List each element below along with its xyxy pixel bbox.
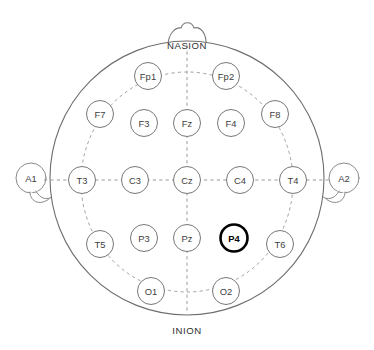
electrode-f8[interactable]: F8 bbox=[262, 101, 289, 128]
electrode-label-c4: C4 bbox=[234, 175, 246, 186]
electrode-pz[interactable]: Pz bbox=[174, 225, 201, 252]
electrode-t5[interactable]: T5 bbox=[87, 231, 114, 258]
electrode-label-f3: F3 bbox=[138, 118, 149, 129]
electrode-label-cz: Cz bbox=[181, 175, 193, 186]
landmark-inion-label: INION bbox=[172, 325, 201, 336]
electrode-o1[interactable]: O1 bbox=[138, 278, 165, 305]
eeg-diagram-canvas: Fp1Fp2F7F3FzF4F8T3C3CzC4T4T5P3PzP4T6O1O2… bbox=[0, 0, 374, 350]
electrode-label-t4: T4 bbox=[287, 175, 298, 186]
electrode-label-fp1: Fp1 bbox=[140, 71, 156, 82]
electrode-f4[interactable]: F4 bbox=[218, 110, 245, 137]
electrode-label-f7: F7 bbox=[94, 109, 105, 120]
electrode-label-o1: O1 bbox=[145, 286, 158, 297]
electrode-t3[interactable]: T3 bbox=[69, 167, 96, 194]
electrode-c4[interactable]: C4 bbox=[227, 167, 254, 194]
electrode-c3[interactable]: C3 bbox=[122, 167, 149, 194]
electrode-label-f8: F8 bbox=[269, 109, 280, 120]
electrode-label-p4: P4 bbox=[228, 233, 240, 244]
electrode-p4[interactable]: P4 bbox=[221, 225, 248, 252]
electrode-f3[interactable]: F3 bbox=[131, 110, 158, 137]
electrode-label-fp2: Fp2 bbox=[218, 71, 234, 82]
electrode-cz[interactable]: Cz bbox=[174, 167, 201, 194]
electrode-f7[interactable]: F7 bbox=[87, 101, 114, 128]
electrode-fz[interactable]: Fz bbox=[174, 110, 201, 137]
ear-label-a2: A2 bbox=[338, 173, 349, 184]
electrode-o2[interactable]: O2 bbox=[213, 278, 240, 305]
electrode-label-fz: Fz bbox=[182, 118, 193, 129]
electrode-fp1[interactable]: Fp1 bbox=[135, 63, 162, 90]
electrode-label-t5: T5 bbox=[94, 239, 105, 250]
electrode-label-pz: Pz bbox=[181, 233, 192, 244]
electrode-fp2[interactable]: Fp2 bbox=[213, 63, 240, 90]
electrode-p3[interactable]: P3 bbox=[131, 225, 158, 252]
ear-label-a1: A1 bbox=[25, 173, 36, 184]
electrode-t6[interactable]: T6 bbox=[267, 231, 294, 258]
electrode-label-t3: T3 bbox=[76, 175, 87, 186]
electrode-label-o2: O2 bbox=[220, 286, 233, 297]
eeg-electrode-map: Fp1Fp2F7F3FzF4F8T3C3CzC4T4T5P3PzP4T6O1O2… bbox=[0, 0, 374, 350]
electrode-label-p3: P3 bbox=[138, 233, 150, 244]
landmark-nasion-label: NASION bbox=[167, 40, 207, 51]
electrode-label-t6: T6 bbox=[274, 239, 285, 250]
electrode-label-c3: C3 bbox=[129, 175, 141, 186]
electrode-t4[interactable]: T4 bbox=[280, 167, 307, 194]
electrode-label-f4: F4 bbox=[225, 118, 236, 129]
